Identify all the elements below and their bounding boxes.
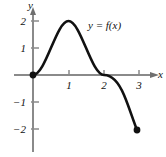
x-tick-label-1: 1: [61, 80, 77, 91]
y-axis-label: y: [28, 0, 33, 11]
start-point-marker: [30, 72, 37, 79]
curve-label: y = f(x): [88, 20, 121, 31]
x-axis-label: x: [158, 69, 163, 80]
x-tick-label-2: 2: [96, 80, 112, 91]
end-point-marker: [134, 127, 141, 134]
y-tick-label-minus-2: −2: [4, 124, 26, 135]
y-tick-label-2: 2: [8, 16, 26, 27]
y-tick-label-1: 1: [8, 43, 26, 54]
function-graph-figure: y x y = f(x) 2 1 −1 −2 1 2 3: [0, 0, 166, 157]
y-tick-label-minus-1: −1: [4, 97, 26, 108]
x-tick-label-3: 3: [131, 80, 147, 91]
